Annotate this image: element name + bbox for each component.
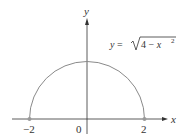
endpoint-left — [28, 117, 32, 121]
tick-neg2: −2 — [23, 123, 35, 135]
function-equation: y = 4 − x 2 — [109, 37, 176, 50]
semicircle-graph: x y −2 0 2 y = 4 − x 2 — [0, 0, 189, 138]
x-axis-arrow-icon — [162, 117, 168, 121]
x-axis-label: x — [170, 113, 176, 125]
y-axis-arrow-icon — [85, 18, 89, 25]
svg-text:4 − x: 4 − x — [141, 39, 162, 50]
endpoint-right — [143, 117, 147, 121]
eq-four-minus: 4 − — [141, 39, 157, 50]
eq-x: x — [156, 39, 162, 50]
tick-0: 0 — [76, 123, 82, 135]
eq-equals: = — [114, 39, 123, 50]
y-axis-label: y — [83, 5, 89, 17]
svg-text:y =: y = — [109, 39, 123, 50]
tick-2: 2 — [141, 123, 147, 135]
eq-exponent: 2 — [171, 37, 175, 45]
